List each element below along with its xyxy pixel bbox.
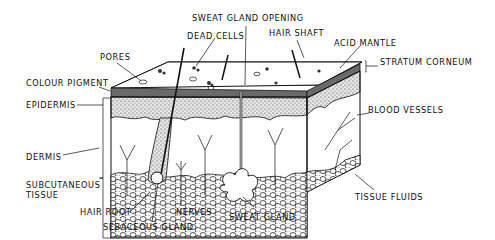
label-pores: PORES (100, 52, 130, 62)
label-sebaceous-gland: SEBACEOUS GLAND (103, 222, 194, 232)
hair-root-bulb (151, 172, 163, 184)
label-nerves: NERVES (176, 207, 212, 217)
label-stratum-corneum: STRATUM CORNEUM (380, 57, 472, 67)
label-subcutaneous-2: TISSUE (26, 190, 59, 200)
label-epidermis: EPIDERMIS (26, 100, 76, 110)
label-hair-root: HAIR ROOT (80, 207, 131, 217)
label-blood-vessels: BLOOD VESSELS (368, 105, 444, 115)
label-hair-shaft: HAIR SHAFT (269, 28, 324, 38)
label-sweat-gland-opening: SWEAT GLAND OPENING (192, 13, 304, 23)
label-colour-pigment: COLOUR PIGMENT (26, 78, 109, 88)
label-tissue-fluids: TISSUE FLUIDS (355, 192, 423, 202)
label-dermis: DERMIS (26, 152, 61, 162)
skin-diagram (0, 0, 495, 240)
label-acid-mantle: ACID MANTLE (334, 38, 397, 48)
label-sweat-gland: SWEAT GLAND (229, 212, 296, 222)
epidermis-layer (111, 97, 307, 120)
label-subcutaneous-1: SUBCUTANEOUS (26, 180, 100, 190)
label-dead-cells: DEAD CELLS (187, 31, 244, 41)
